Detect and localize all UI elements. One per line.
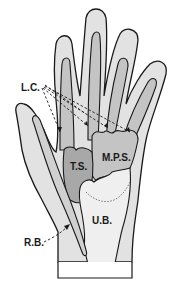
label-ts: T.S. xyxy=(70,161,87,172)
label-lc: L.C. xyxy=(21,82,40,93)
wrist-outline xyxy=(58,262,132,278)
label-ub: U.B. xyxy=(92,215,112,226)
label-mps: M.P.S. xyxy=(102,152,131,163)
hand-sheath-diagram: L.C. T.S. M.P.S. U.B. R.B. xyxy=(0,0,184,285)
label-rb: R.B. xyxy=(24,237,44,248)
